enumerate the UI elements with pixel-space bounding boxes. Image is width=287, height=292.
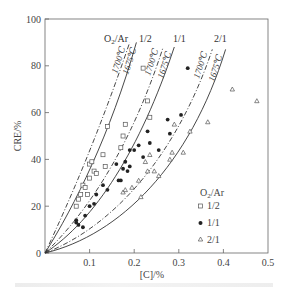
data-point xyxy=(123,188,127,192)
legend-square-icon xyxy=(199,204,203,208)
data-point xyxy=(168,132,172,136)
data-point xyxy=(206,120,210,124)
data-point xyxy=(92,202,96,206)
x-axis-label: [C]/% xyxy=(140,269,164,280)
data-point xyxy=(85,193,89,197)
legend: O2/Ar 1/2 1/1 2/1 xyxy=(198,187,224,245)
data-point xyxy=(123,122,127,126)
data-point xyxy=(101,153,105,157)
data-point xyxy=(119,179,123,183)
data-point xyxy=(88,176,92,180)
data-point xyxy=(152,169,156,173)
label-two-1675: 1675℃ xyxy=(206,52,224,83)
legend-dot-icon xyxy=(199,221,203,225)
data-point xyxy=(148,115,152,119)
data-point xyxy=(230,87,234,91)
x-tick-0.5: 0.5 xyxy=(262,257,275,268)
data-point xyxy=(119,146,123,150)
data-point xyxy=(77,223,81,227)
data-point xyxy=(157,148,161,152)
data-point xyxy=(76,197,80,201)
data-point xyxy=(123,160,127,164)
data-point xyxy=(83,185,87,189)
x-tick-labels: 0.1 0.2 0.3 0.4 0.5 xyxy=(83,257,274,268)
data-point xyxy=(81,225,85,229)
y-tick-80: 80 xyxy=(31,60,41,71)
x-tick-0.4: 0.4 xyxy=(217,257,230,268)
data-point xyxy=(121,167,125,171)
data-point xyxy=(101,183,105,187)
x-tick-0.2: 0.2 xyxy=(128,257,141,268)
data-point xyxy=(132,148,136,152)
x-axis xyxy=(90,249,224,253)
data-point xyxy=(255,99,259,103)
data-point xyxy=(181,150,185,154)
y-axis-label: CRE/% xyxy=(12,121,23,152)
data-point xyxy=(141,66,145,70)
data-point xyxy=(166,118,170,122)
legend-title: O2/Ar xyxy=(200,187,225,200)
y-tick-40: 40 xyxy=(31,154,41,165)
x-tick-0.1: 0.1 xyxy=(83,257,96,268)
data-point xyxy=(88,204,92,208)
data-point xyxy=(94,193,98,197)
data-point xyxy=(83,214,87,218)
y-tick-60: 60 xyxy=(31,107,41,118)
y-axis xyxy=(45,19,49,253)
curve-one-1675 xyxy=(45,47,174,253)
data-point xyxy=(126,169,130,173)
data-point xyxy=(146,99,150,103)
data-point xyxy=(130,185,134,189)
data-point xyxy=(172,122,176,126)
legend-triangle-icon xyxy=(198,237,202,241)
header-ratio-half: 1/2 xyxy=(139,33,152,44)
x-tick-0.3: 0.3 xyxy=(173,257,186,268)
data-point xyxy=(148,153,152,157)
data-point xyxy=(106,188,110,192)
legend-label-one: 1/1 xyxy=(207,217,220,228)
curve-group-header: O2/Ar 1/2 1/1 2/1 xyxy=(104,33,227,46)
data-point xyxy=(79,193,83,197)
data-point xyxy=(146,129,150,133)
data-point xyxy=(90,160,94,164)
data-point xyxy=(143,160,147,164)
data-point xyxy=(136,178,140,182)
data-point xyxy=(114,162,118,166)
data-point xyxy=(186,66,190,70)
y-tick-100: 100 xyxy=(26,14,41,25)
data-point xyxy=(137,143,141,147)
data-point xyxy=(170,150,174,154)
header-ratio-two: 2/1 xyxy=(214,33,227,44)
data-point xyxy=(148,141,152,145)
data-point xyxy=(94,171,98,175)
data-point xyxy=(103,164,107,168)
data-point xyxy=(168,157,172,161)
legend-label-half: 1/2 xyxy=(207,200,220,211)
chart-canvas: 0 20 40 60 80 100 0.1 0.2 0.3 0.4 0.5 [C… xyxy=(0,0,287,292)
header-ratio-one: 1/1 xyxy=(173,33,186,44)
figure-caption-faint xyxy=(15,283,273,287)
data-point xyxy=(141,155,145,159)
data-point xyxy=(74,204,78,208)
data-point xyxy=(128,165,132,169)
data-point xyxy=(105,125,109,129)
y-tick-labels: 0 20 40 60 80 100 xyxy=(26,14,41,259)
data-point xyxy=(128,148,132,152)
series-half-squares xyxy=(74,66,152,208)
header-o2-ar: O2/Ar xyxy=(104,33,129,46)
y-tick-20: 20 xyxy=(31,201,41,212)
legend-label-two: 2/1 xyxy=(207,234,220,245)
data-point xyxy=(121,134,125,138)
data-point xyxy=(179,113,183,117)
y-tick-0: 0 xyxy=(36,248,41,259)
